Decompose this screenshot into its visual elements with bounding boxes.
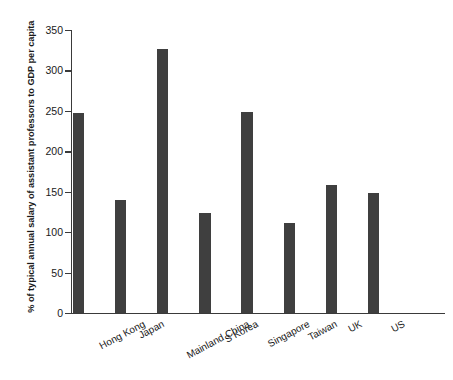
bar <box>241 112 253 313</box>
y-tick-mark <box>65 273 72 274</box>
y-tick-label: 150 <box>45 186 63 197</box>
bar <box>326 185 338 313</box>
bar-chart: % of typical annual salary of assistant … <box>0 0 453 380</box>
y-tick-label: 350 <box>45 25 63 36</box>
x-axis-label-text: US <box>389 319 406 334</box>
y-tick-label: 300 <box>45 65 63 76</box>
x-axis-label: Singapore <box>266 319 311 349</box>
y-tick-mark <box>65 70 72 71</box>
y-tick-label: 50 <box>51 267 63 278</box>
bar <box>115 200 127 313</box>
x-axis-label: US <box>389 319 406 334</box>
x-axis-label-text: Taiwan <box>307 319 339 342</box>
y-tick-label: 0 <box>57 308 63 319</box>
y-tick-label: 250 <box>45 106 63 117</box>
y-tick-mark <box>65 30 72 31</box>
y-tick-mark <box>65 232 72 233</box>
bar <box>157 49 169 313</box>
bar <box>199 213 211 313</box>
x-axis-label-text: UK <box>347 319 364 334</box>
y-tick-mark <box>65 313 72 314</box>
y-tick-label: 100 <box>45 227 63 238</box>
bar <box>73 113 85 313</box>
y-tick-label: 200 <box>45 146 63 157</box>
y-tick-mark <box>65 111 72 112</box>
bar <box>368 193 380 313</box>
x-axis-line <box>71 313 445 314</box>
plot-area: 050100150200250300350 Hong KongJapanMain… <box>71 30 445 313</box>
y-tick-mark <box>65 192 72 193</box>
y-axis-title: % of typical annual salary of assistant … <box>27 17 36 317</box>
x-axis-label: UK <box>347 319 364 334</box>
x-axis-label-text: Singapore <box>266 319 311 349</box>
x-axis-label: Taiwan <box>307 319 339 342</box>
y-tick-mark <box>65 151 72 152</box>
bar <box>284 223 296 313</box>
